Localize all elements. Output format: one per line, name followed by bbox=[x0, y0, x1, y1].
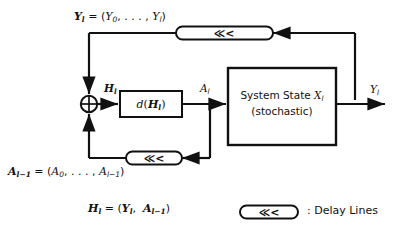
block-diagram-figure: ≪< bbox=[0, 0, 396, 234]
system-state-label: System State Xl (stochastic) bbox=[228, 88, 336, 119]
legend-delay-line-symbol: ≪< bbox=[240, 206, 298, 219]
label-y-output: Yl bbox=[370, 84, 379, 96]
label-a-signal: Al bbox=[200, 83, 210, 95]
system-state-line1: System State Xl bbox=[240, 89, 323, 101]
system-state-line2: (stochastic) bbox=[251, 105, 312, 117]
delay-line-bottom-glyph: ≪< bbox=[144, 152, 165, 165]
label-a-history: Al−1 = (A0, . . . , Al−1) bbox=[8, 166, 124, 178]
decision-function-label: d(Hl) bbox=[120, 98, 182, 112]
label-h-definition: Hl = (Yl, Al−1) bbox=[88, 203, 170, 215]
label-y-history: Yl = (Y0, . . . , Yl) bbox=[74, 11, 166, 23]
summing-junction bbox=[81, 96, 97, 112]
delay-line-top-glyph: ≪< bbox=[214, 27, 235, 40]
delay-line-top: ≪< bbox=[176, 27, 273, 40]
delay-line-bottom: ≪< bbox=[126, 152, 182, 165]
label-h-signal: Hl bbox=[104, 83, 117, 95]
legend-delay-glyph: ≪< bbox=[259, 206, 280, 219]
legend-label: : Delay Lines bbox=[307, 205, 378, 216]
diagram-canvas: ≪< bbox=[0, 0, 396, 234]
